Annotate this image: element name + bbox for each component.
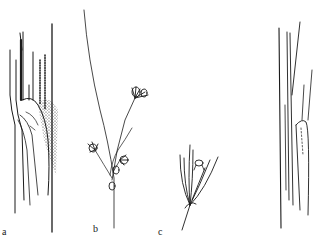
panel-d-drawing (279, 22, 312, 228)
panel-label-b: b (93, 224, 98, 234)
panel-label-c: c (158, 227, 162, 237)
illustration-canvas (0, 0, 317, 239)
botanical-figure: a b c (0, 0, 317, 239)
panel-b-drawing (84, 10, 148, 228)
panel-c-drawing (180, 145, 218, 230)
panel-label-a: a (2, 227, 6, 237)
panel-a-drawing (10, 24, 58, 232)
